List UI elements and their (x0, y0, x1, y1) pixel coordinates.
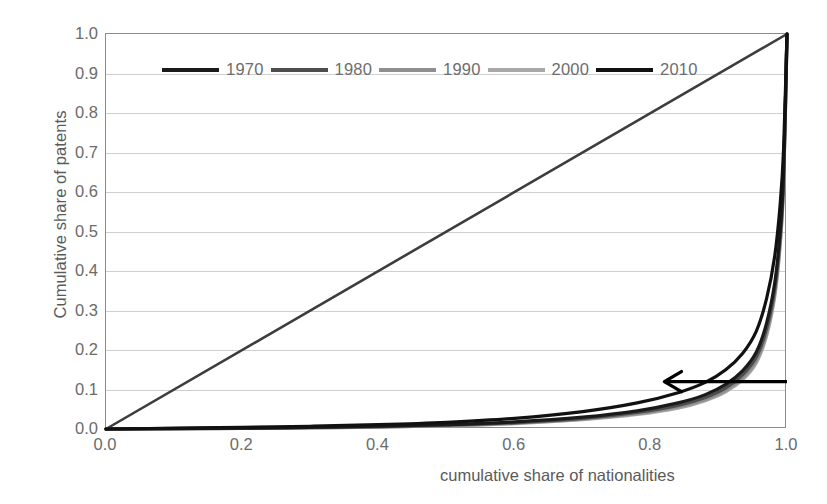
y-tick-label: 0.0 (52, 420, 98, 437)
legend-label: 1970 (226, 60, 264, 79)
x-tick-label: 0.2 (230, 436, 253, 453)
legend-swatch-icon (488, 68, 545, 72)
y-tick-label: 1.0 (52, 25, 98, 42)
lorenz-curve-chart: Cumulative share of patents 0.00.10.20.3… (0, 0, 827, 504)
y-tick-label: 0.5 (52, 222, 98, 239)
legend-item-2000[interactable]: 2000 (481, 60, 590, 79)
legend-item-1980[interactable]: 1980 (264, 60, 373, 79)
legend-item-1990[interactable]: 1990 (372, 60, 481, 79)
y-axis-tick-labels: 0.00.10.20.30.40.50.60.70.80.91.0 (52, 0, 98, 504)
y-tick-label: 0.9 (52, 64, 98, 81)
legend-swatch-icon (379, 68, 436, 72)
x-tick-label: 0.0 (94, 436, 117, 453)
x-tick-label: 1.0 (775, 436, 798, 453)
y-tick-label: 0.2 (52, 341, 98, 358)
legend-label: 2010 (660, 60, 698, 79)
legend-label: 1990 (443, 60, 481, 79)
legend-item-2010[interactable]: 2010 (589, 60, 698, 79)
legend: 19701980199020002010 (155, 60, 698, 79)
y-tick-label: 0.3 (52, 301, 98, 318)
plot-area (105, 33, 786, 428)
series-lines (106, 34, 787, 429)
legend-label: 1980 (335, 60, 373, 79)
legend-label: 2000 (552, 60, 590, 79)
x-tick-label: 0.6 (502, 436, 525, 453)
x-tick-label: 0.4 (366, 436, 389, 453)
legend-item-1970[interactable]: 1970 (155, 60, 264, 79)
y-tick-label: 0.8 (52, 104, 98, 121)
legend-swatch-icon (271, 68, 328, 72)
y-tick-label: 0.6 (52, 183, 98, 200)
x-axis-title: cumulative share of nationalities (440, 466, 675, 485)
legend-swatch-icon (596, 68, 653, 72)
equality-line (106, 34, 787, 429)
y-tick-label: 0.7 (52, 143, 98, 160)
legend-swatch-icon (162, 68, 219, 72)
y-tick-label: 0.1 (52, 380, 98, 397)
y-tick-label: 0.4 (52, 262, 98, 279)
x-tick-label: 0.8 (638, 436, 661, 453)
